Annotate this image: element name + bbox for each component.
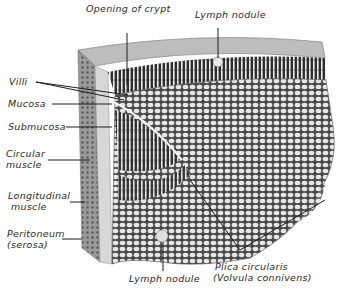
- label-submucosa: Submucosa: [8, 121, 66, 132]
- fold-upper: [200, 103, 327, 161]
- label-peritoneum: Peritoneum (serosa): [7, 228, 65, 250]
- label-circular-muscle-line1: Circular: [6, 148, 45, 159]
- label-longitudinal-muscle: Longitudinal muscle: [8, 190, 70, 212]
- label-longitudinal-muscle-line1: Longitudinal: [8, 190, 70, 201]
- label-peritoneum-line1: Peritoneum: [7, 228, 65, 239]
- label-plica-circularis: Plica circularis (Volvula connivens): [215, 261, 312, 283]
- label-longitudinal-muscle-line2: muscle: [8, 201, 47, 212]
- label-lymph-nodule-top: Lymph nodule: [195, 9, 266, 20]
- lymph-nodule-bottom: [156, 230, 168, 242]
- label-villi: Villi: [9, 76, 28, 87]
- label-circular-muscle-line2: muscle: [6, 159, 42, 170]
- label-plica-line1: Plica circularis: [215, 261, 288, 272]
- label-mucosa: Mucosa: [8, 98, 46, 109]
- label-circular-muscle: Circular muscle: [6, 148, 45, 170]
- label-peritoneum-line2: (serosa): [7, 239, 48, 250]
- intestine-diagram: Opening of crypt Lymph nodule Villi Muco…: [0, 0, 339, 291]
- label-plica-line2: (Volvula connivens): [213, 272, 312, 283]
- label-lymph-nodule-bottom: Lymph nodule: [129, 273, 200, 284]
- label-opening-of-crypt: Opening of crypt: [86, 3, 171, 14]
- lymph-nodule-top: [213, 57, 223, 67]
